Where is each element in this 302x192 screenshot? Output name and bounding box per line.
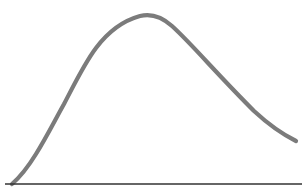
curve-chart [0, 0, 302, 192]
chart-background [0, 0, 302, 192]
figure-container [0, 0, 302, 192]
